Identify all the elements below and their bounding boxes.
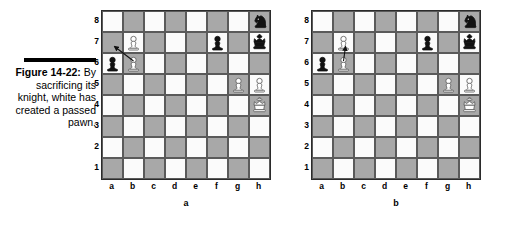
square-c6[interactable] <box>354 53 375 74</box>
square-a8[interactable] <box>312 11 333 32</box>
square-d4[interactable] <box>165 95 186 116</box>
square-d2[interactable] <box>165 137 186 158</box>
square-d3[interactable] <box>165 116 186 137</box>
square-h4[interactable] <box>249 95 270 116</box>
square-c5[interactable] <box>354 74 375 95</box>
square-e2[interactable] <box>186 137 207 158</box>
square-e6[interactable] <box>186 53 207 74</box>
square-c3[interactable] <box>354 116 375 137</box>
square-f3[interactable] <box>417 116 438 137</box>
square-f4[interactable] <box>207 95 228 116</box>
square-g6[interactable] <box>228 53 249 74</box>
square-b1[interactable] <box>333 158 354 179</box>
square-d8[interactable] <box>165 11 186 32</box>
square-a6[interactable] <box>312 53 333 74</box>
square-c5[interactable] <box>144 74 165 95</box>
square-g8[interactable] <box>438 11 459 32</box>
square-g2[interactable] <box>438 137 459 158</box>
square-b4[interactable] <box>333 95 354 116</box>
square-d5[interactable] <box>165 74 186 95</box>
square-f8[interactable] <box>207 11 228 32</box>
square-e6[interactable] <box>396 53 417 74</box>
square-e4[interactable] <box>396 95 417 116</box>
square-a1[interactable] <box>312 158 333 179</box>
square-b6[interactable] <box>333 53 354 74</box>
square-e7[interactable] <box>396 32 417 53</box>
square-g3[interactable] <box>438 116 459 137</box>
square-f6[interactable] <box>417 53 438 74</box>
square-d1[interactable] <box>165 158 186 179</box>
square-d3[interactable] <box>375 116 396 137</box>
square-d7[interactable] <box>375 32 396 53</box>
square-h4[interactable] <box>459 95 480 116</box>
square-a2[interactable] <box>312 137 333 158</box>
square-h2[interactable] <box>249 137 270 158</box>
square-b2[interactable] <box>333 137 354 158</box>
square-f1[interactable] <box>207 158 228 179</box>
square-a5[interactable] <box>102 74 123 95</box>
square-g5[interactable] <box>228 74 249 95</box>
square-a2[interactable] <box>102 137 123 158</box>
square-c2[interactable] <box>354 137 375 158</box>
square-c2[interactable] <box>144 137 165 158</box>
square-d4[interactable] <box>375 95 396 116</box>
square-d1[interactable] <box>375 158 396 179</box>
square-h6[interactable] <box>459 53 480 74</box>
square-a4[interactable] <box>312 95 333 116</box>
square-a8[interactable] <box>102 11 123 32</box>
square-c3[interactable] <box>144 116 165 137</box>
square-c1[interactable] <box>144 158 165 179</box>
square-e2[interactable] <box>396 137 417 158</box>
square-e8[interactable] <box>186 11 207 32</box>
square-h6[interactable] <box>249 53 270 74</box>
square-b2[interactable] <box>123 137 144 158</box>
square-e5[interactable] <box>186 74 207 95</box>
square-g1[interactable] <box>438 158 459 179</box>
square-f4[interactable] <box>417 95 438 116</box>
square-d7[interactable] <box>165 32 186 53</box>
square-e8[interactable] <box>396 11 417 32</box>
square-b7[interactable] <box>123 32 144 53</box>
square-a7[interactable] <box>102 32 123 53</box>
square-g6[interactable] <box>438 53 459 74</box>
square-c4[interactable] <box>354 95 375 116</box>
square-d6[interactable] <box>165 53 186 74</box>
square-h1[interactable] <box>249 158 270 179</box>
square-a1[interactable] <box>102 158 123 179</box>
square-e7[interactable] <box>186 32 207 53</box>
square-h8[interactable] <box>459 11 480 32</box>
square-d5[interactable] <box>375 74 396 95</box>
square-g5[interactable] <box>438 74 459 95</box>
square-a6[interactable] <box>102 53 123 74</box>
square-h1[interactable] <box>459 158 480 179</box>
square-b7[interactable] <box>333 32 354 53</box>
square-c6[interactable] <box>144 53 165 74</box>
square-b3[interactable] <box>333 116 354 137</box>
square-g2[interactable] <box>228 137 249 158</box>
square-e3[interactable] <box>186 116 207 137</box>
square-c4[interactable] <box>144 95 165 116</box>
square-f5[interactable] <box>207 74 228 95</box>
square-h2[interactable] <box>459 137 480 158</box>
square-f7[interactable] <box>417 32 438 53</box>
square-b5[interactable] <box>123 74 144 95</box>
square-f7[interactable] <box>207 32 228 53</box>
square-h7[interactable] <box>249 32 270 53</box>
square-h8[interactable] <box>249 11 270 32</box>
square-c7[interactable] <box>354 32 375 53</box>
square-b8[interactable] <box>333 11 354 32</box>
square-g7[interactable] <box>228 32 249 53</box>
square-d6[interactable] <box>375 53 396 74</box>
square-a5[interactable] <box>312 74 333 95</box>
square-h7[interactable] <box>459 32 480 53</box>
square-h5[interactable] <box>249 74 270 95</box>
square-b6[interactable] <box>123 53 144 74</box>
square-e1[interactable] <box>186 158 207 179</box>
square-c7[interactable] <box>144 32 165 53</box>
square-d2[interactable] <box>375 137 396 158</box>
square-g3[interactable] <box>228 116 249 137</box>
square-f3[interactable] <box>207 116 228 137</box>
square-c1[interactable] <box>354 158 375 179</box>
square-f8[interactable] <box>417 11 438 32</box>
square-h3[interactable] <box>249 116 270 137</box>
